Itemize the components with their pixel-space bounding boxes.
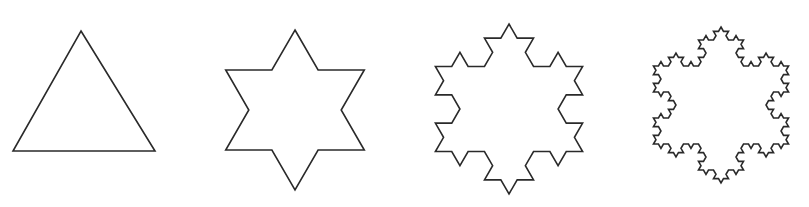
- koch-iteration-2-shape: [435, 24, 582, 194]
- koch-iteration-3-shape: [653, 27, 788, 183]
- koch-iteration-0-shape: [13, 31, 155, 151]
- koch-iteration-1-shape: [226, 30, 365, 190]
- koch-snowflake-figure: [0, 0, 809, 207]
